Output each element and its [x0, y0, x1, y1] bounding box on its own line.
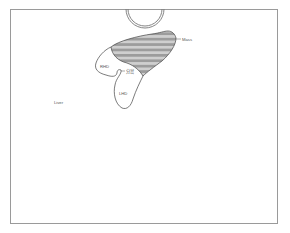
mass-region	[111, 31, 176, 76]
bifurcation-label: 分岔	[126, 68, 135, 75]
liver-label: Liver	[54, 100, 64, 105]
rhd-label: RHD	[100, 64, 109, 69]
lhd-label: LHD	[119, 91, 127, 96]
mass-label: Mass	[182, 37, 192, 42]
liver-diagram: Mass RHD 分岔 LHD Liver	[0, 0, 290, 233]
circle-structure	[126, 9, 164, 28]
